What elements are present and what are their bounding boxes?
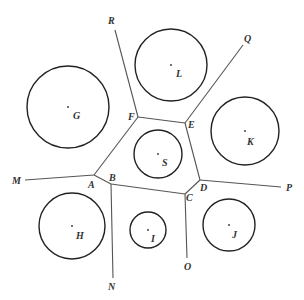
edge-EF — [138, 117, 185, 123]
ray-EQ — [185, 45, 243, 123]
site-circles — [27, 29, 279, 259]
center-dot-S — [157, 153, 159, 155]
ray-FR — [115, 30, 138, 117]
ray-AM — [25, 175, 94, 180]
circle-label-J: J — [231, 229, 238, 240]
ray-label-O: O — [184, 261, 191, 272]
circle-label-L: L — [175, 68, 182, 79]
labels: MNOPQRABCDEFGLKSHIJ — [11, 15, 293, 292]
circle-label-H: H — [75, 230, 85, 241]
center-dot-L — [170, 64, 172, 66]
center-dot-K — [244, 130, 246, 132]
circle-label-S: S — [162, 157, 168, 168]
center-dot-I — [147, 229, 149, 231]
ray-label-N: N — [107, 281, 116, 292]
vertex-label-D: D — [199, 182, 207, 193]
ray-label-P: P — [286, 182, 293, 193]
voronoi-diagram: MNOPQRABCDEFGLKSHIJ — [0, 0, 304, 300]
ray-CO — [185, 194, 187, 258]
edge-BC — [111, 184, 185, 194]
ray-DP — [200, 180, 281, 187]
center-dot-H — [71, 225, 73, 227]
circle-label-K: K — [246, 136, 255, 147]
vertex-label-B: B — [108, 172, 116, 183]
ray-BN — [111, 184, 113, 278]
ray-label-Q: Q — [244, 33, 251, 44]
edge-FA — [94, 117, 138, 175]
center-dot-G — [67, 106, 69, 108]
ray-label-R: R — [107, 15, 115, 26]
edge-DE — [185, 123, 200, 180]
circle-label-G: G — [73, 110, 81, 121]
circle-label-I: I — [150, 233, 156, 244]
ray-label-M: M — [11, 175, 22, 186]
vertex-label-E: E — [187, 119, 195, 130]
vertex-label-F: F — [127, 111, 135, 122]
vertex-label-A: A — [87, 179, 95, 190]
center-dot-J — [228, 224, 230, 226]
vertex-label-C: C — [186, 192, 193, 203]
